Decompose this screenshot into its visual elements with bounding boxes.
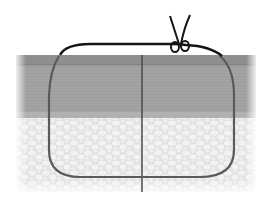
suture-diagram <box>0 0 271 210</box>
dermis-fat-transition <box>16 112 256 118</box>
suture-surface-path <box>60 44 222 56</box>
skin-layers <box>14 50 259 196</box>
suture-knot-icon <box>170 15 190 52</box>
